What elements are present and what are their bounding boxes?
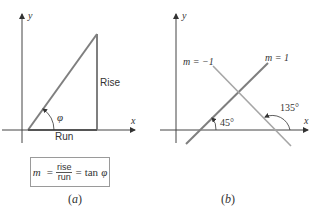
angle-label-phi: φ xyxy=(57,111,63,123)
caption-a: (a) xyxy=(68,192,82,207)
formula-fraction: rise run xyxy=(56,163,73,182)
line-pos-label: m = 1 xyxy=(265,52,289,63)
angle-label-45: 45° xyxy=(220,117,234,128)
formula-numerator: rise xyxy=(56,163,73,173)
x-axis-label-b: x xyxy=(303,115,309,126)
angle-arc-45 xyxy=(212,118,216,130)
panel-a: y x Rise Run φ xyxy=(2,10,136,143)
angle-arc-phi xyxy=(43,109,54,130)
formula-lhs: m xyxy=(33,166,41,178)
caption-a-close: ) xyxy=(78,192,82,206)
y-axis-label-b: y xyxy=(181,10,187,21)
formula-phi: φ xyxy=(101,166,107,178)
run-label: Run xyxy=(55,131,73,142)
rise-label: Rise xyxy=(100,77,120,88)
x-axis-label-a: x xyxy=(130,115,136,126)
caption-b: (b) xyxy=(221,192,235,207)
caption-b-close: ) xyxy=(231,192,235,206)
panel-b: y x m = −1 m = 1 45° 135° xyxy=(160,10,309,146)
formula-tan: tan xyxy=(85,166,98,178)
y-axis-label-a: y xyxy=(27,10,33,21)
angle-label-135: 135° xyxy=(280,102,299,113)
formula-denominator: run xyxy=(58,173,71,182)
slope-formula-box: m = rise run = tan φ xyxy=(30,157,110,187)
line-neg-label: m = −1 xyxy=(183,56,214,67)
formula-equals-2: = xyxy=(75,166,81,178)
formula-equals-1: = xyxy=(47,166,53,178)
line-slope-pos xyxy=(186,63,268,144)
